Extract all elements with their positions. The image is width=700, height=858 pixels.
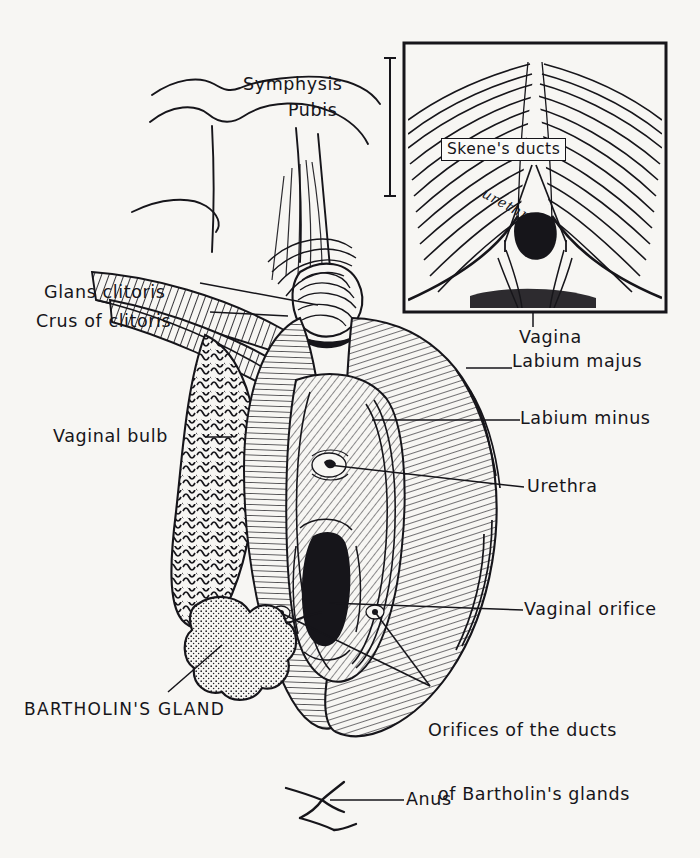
label-bartholin-duct-orifices: Orifices of the ducts of Bartholin's gla… xyxy=(428,677,630,848)
label-crus-of-clitoris: Crus of clitoris xyxy=(36,311,171,332)
label-vaginal-bulb: Vaginal bulb xyxy=(53,426,168,447)
label-glans-clitoris: Glans clitoris xyxy=(44,282,165,303)
label-bartholins-gland: BARTHOLIN'S GLAND xyxy=(24,699,225,719)
label-vaginal-orifice: Vaginal orifice xyxy=(524,599,657,620)
label-vagina: Vagina xyxy=(519,327,582,348)
label-symphysis-pubis-line2: Pubis xyxy=(288,100,337,121)
label-urethra: Urethra xyxy=(527,476,597,497)
label-anus: Anus xyxy=(406,789,452,810)
anatomical-figure: Symphysis Pubis Glans clitoris Crus of c… xyxy=(0,0,700,858)
label-bartholin-duct-orifices-line1: Orifices of the ducts xyxy=(428,720,630,741)
label-symphysis-pubis-line1: Symphysis xyxy=(243,74,343,95)
label-bartholin-duct-orifices-line2: of Bartholin's glands xyxy=(428,784,630,805)
label-labium-minus: Labium minus xyxy=(520,408,651,429)
label-skenes-ducts: Skene's ducts xyxy=(441,138,566,161)
label-labium-majus: Labium majus xyxy=(512,351,642,372)
inset-drawing xyxy=(408,47,662,308)
